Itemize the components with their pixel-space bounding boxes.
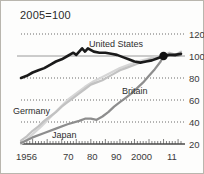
annotation-markers-group — [159, 52, 167, 60]
y-tick-label-20: 20 — [189, 139, 200, 150]
y-tick-label-60: 60 — [189, 95, 200, 106]
x-tick-label-90: 90 — [111, 151, 122, 162]
series-label-japan: Japan — [52, 130, 77, 140]
x-tick-label-70: 70 — [63, 151, 74, 162]
chart-plot-area — [1, 1, 204, 174]
series-lines-group — [21, 48, 181, 144]
series-label-britain: Britain — [122, 86, 148, 96]
series-label-germany: Germany — [13, 106, 50, 116]
x-tick-label-1956: 1956 — [16, 151, 37, 162]
x-tick-label-80: 80 — [87, 151, 98, 162]
chart-frame: 2005=100 12010080604020 1956708090200011… — [0, 0, 204, 174]
x-axis-ticks — [21, 139, 181, 144]
convergence-marker — [159, 52, 167, 60]
series-line-united-states — [21, 48, 181, 78]
y-tick-label-100: 100 — [189, 51, 204, 62]
x-tick-label-11: 11 — [167, 151, 177, 162]
x-tick-label-2000: 2000 — [131, 151, 152, 162]
y-tick-label-80: 80 — [189, 73, 200, 84]
series-label-united-states: United States — [89, 39, 143, 49]
y-tick-label-40: 40 — [189, 117, 200, 128]
gridlines-group — [17, 34, 185, 144]
y-tick-label-120: 120 — [189, 29, 204, 40]
